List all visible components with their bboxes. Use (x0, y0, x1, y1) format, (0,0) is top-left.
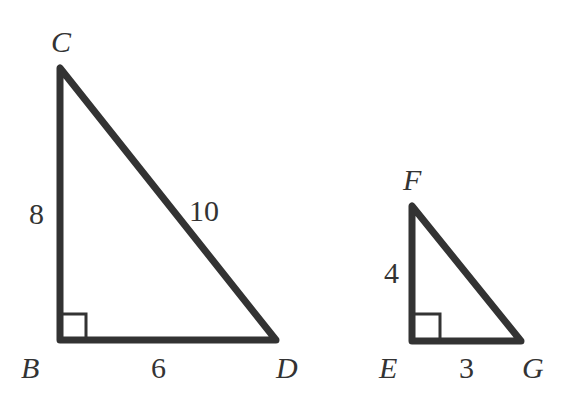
side-label-fe: 4 (384, 256, 399, 289)
right-angle-marker-b (60, 314, 86, 340)
triangle-feg: F E G 4 3 (378, 163, 544, 384)
vertex-label-d: D (275, 351, 298, 384)
vertex-label-f: F (402, 163, 422, 196)
similar-triangles-diagram: C B D 8 10 6 F E G 4 3 (0, 0, 570, 394)
triangle-cbd: C B D 8 10 6 (21, 25, 298, 384)
vertex-label-b: B (21, 351, 39, 384)
side-label-cb: 8 (29, 197, 44, 230)
vertex-label-e: E (378, 351, 397, 384)
side-label-cd: 10 (189, 194, 219, 227)
right-angle-marker-e (412, 314, 440, 341)
side-label-bd: 6 (151, 351, 166, 384)
side-label-eg: 3 (459, 351, 474, 384)
vertex-label-c: C (51, 25, 72, 58)
vertex-label-g: G (522, 351, 544, 384)
triangle-cbd-outline (60, 68, 276, 340)
triangle-feg-outline (412, 206, 521, 341)
